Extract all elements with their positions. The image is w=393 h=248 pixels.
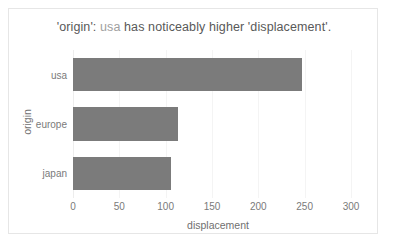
chart-title-prefix: 'origin': [57, 20, 100, 34]
x-tick-100: 100 [146, 201, 186, 212]
chart-title: 'origin': usa has noticeably higher 'dis… [9, 20, 379, 34]
chart-title-highlight: usa [100, 20, 120, 34]
bar-usa [73, 58, 302, 92]
x-tick-50: 50 [99, 201, 139, 212]
y-tick-usa: usa [9, 69, 67, 80]
chart-figure: 'origin': usa has noticeably higher 'dis… [8, 8, 378, 234]
x-tick-0: 0 [53, 201, 93, 212]
x-tick-250: 250 [285, 201, 325, 212]
x-tick-300: 300 [331, 201, 371, 212]
y-tick-japan: japan [9, 168, 67, 179]
plot-area [73, 50, 351, 198]
y-tick-europe: europe [9, 119, 67, 130]
bar-japan [73, 157, 171, 191]
gridline-x-300 [351, 50, 352, 198]
x-tick-150: 150 [192, 201, 232, 212]
chart-title-suffix: has noticeably higher 'displacement'. [120, 20, 331, 34]
bar-europe [73, 107, 178, 141]
x-axis-title: displacement [73, 219, 363, 231]
bar-series [73, 50, 351, 198]
x-tick-200: 200 [238, 201, 278, 212]
